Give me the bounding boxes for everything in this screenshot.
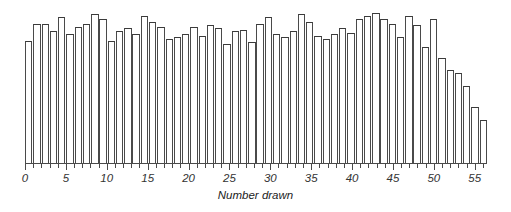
bar-series bbox=[25, 8, 487, 163]
x-axis-minor-tick bbox=[90, 164, 91, 168]
x-axis-tick-labels: 0510152025303540455055 bbox=[25, 172, 487, 188]
x-axis-major-tick bbox=[352, 164, 353, 170]
x-axis-major-tick bbox=[229, 164, 230, 170]
x-axis-tick-label: 50 bbox=[427, 172, 440, 184]
x-axis-minor-tick bbox=[172, 164, 173, 168]
histogram-bar bbox=[455, 73, 462, 163]
x-axis-minor-tick bbox=[458, 164, 459, 168]
x-axis-minor-tick bbox=[401, 164, 402, 168]
x-axis-tick-label: 30 bbox=[264, 172, 277, 184]
x-axis-label: Number drawn bbox=[0, 189, 511, 201]
histogram-bar bbox=[25, 41, 32, 163]
histogram-bar bbox=[83, 24, 90, 164]
histogram-bar bbox=[207, 25, 214, 163]
x-axis-minor-tick bbox=[197, 164, 198, 168]
histogram-bar bbox=[405, 16, 412, 163]
histogram-bar bbox=[58, 17, 65, 163]
x-axis-major-tick bbox=[270, 164, 271, 170]
x-axis-major-tick bbox=[393, 164, 394, 170]
x-axis-minor-tick bbox=[295, 164, 296, 168]
x-axis-minor-tick bbox=[33, 164, 34, 168]
histogram-bar bbox=[339, 28, 346, 163]
x-axis-major-tick bbox=[434, 164, 435, 170]
x-axis-minor-tick bbox=[180, 164, 181, 168]
x-axis-minor-tick bbox=[483, 164, 484, 168]
histogram-bar bbox=[66, 34, 73, 163]
histogram-bar bbox=[306, 22, 313, 163]
x-axis-ticks bbox=[25, 164, 487, 170]
x-axis-major-tick bbox=[66, 164, 67, 170]
histogram-bar bbox=[50, 31, 57, 163]
histogram-bar bbox=[33, 24, 40, 164]
x-axis-minor-tick bbox=[156, 164, 157, 168]
histogram-bar bbox=[256, 24, 263, 164]
histogram-bar bbox=[223, 44, 230, 163]
x-axis-minor-tick bbox=[303, 164, 304, 168]
x-axis-minor-tick bbox=[123, 164, 124, 168]
histogram-bar bbox=[75, 27, 82, 163]
histogram-bar bbox=[380, 19, 387, 163]
x-axis-minor-tick bbox=[385, 164, 386, 168]
x-axis-minor-tick bbox=[164, 164, 165, 168]
histogram-bar bbox=[265, 17, 272, 163]
histogram-bar bbox=[422, 47, 429, 163]
histogram-bar bbox=[372, 13, 379, 163]
x-axis-major-tick bbox=[148, 164, 149, 170]
histogram-bar bbox=[447, 70, 454, 163]
x-axis-minor-tick bbox=[82, 164, 83, 168]
histogram-bar bbox=[281, 37, 288, 163]
x-axis-minor-tick bbox=[377, 164, 378, 168]
histogram-bar bbox=[232, 31, 239, 163]
histogram-bar bbox=[331, 34, 338, 163]
histogram-bar bbox=[356, 19, 363, 163]
histogram-bar bbox=[199, 36, 206, 163]
x-axis-major-tick bbox=[189, 164, 190, 170]
histogram-bar bbox=[290, 31, 297, 163]
histogram-bar bbox=[132, 34, 139, 163]
x-axis-minor-tick bbox=[336, 164, 337, 168]
x-axis-minor-tick bbox=[409, 164, 410, 168]
x-axis-tick-label: 15 bbox=[141, 172, 154, 184]
x-axis-tick-label: 40 bbox=[346, 172, 359, 184]
x-axis-major-tick bbox=[107, 164, 108, 170]
histogram-bar bbox=[323, 39, 330, 163]
x-axis-major-tick bbox=[311, 164, 312, 170]
histogram-figure: 0510152025303540455055 Number drawn bbox=[0, 0, 511, 212]
x-axis-tick-label: 20 bbox=[182, 172, 195, 184]
x-axis-minor-tick bbox=[417, 164, 418, 168]
histogram-bar bbox=[438, 58, 445, 163]
x-axis-minor-tick bbox=[238, 164, 239, 168]
x-axis-minor-tick bbox=[287, 164, 288, 168]
histogram-bar bbox=[413, 25, 420, 163]
x-axis-tick-label: 55 bbox=[468, 172, 481, 184]
plot-area bbox=[25, 8, 487, 163]
histogram-bar bbox=[389, 24, 396, 164]
x-axis-tick-label: 25 bbox=[223, 172, 236, 184]
x-axis-minor-tick bbox=[450, 164, 451, 168]
x-axis-minor-tick bbox=[344, 164, 345, 168]
histogram-bar bbox=[215, 28, 222, 163]
x-axis-minor-tick bbox=[278, 164, 279, 168]
histogram-bar bbox=[166, 39, 173, 163]
x-axis-tick-label: 5 bbox=[63, 172, 69, 184]
histogram-bar bbox=[149, 22, 156, 163]
x-axis-minor-tick bbox=[328, 164, 329, 168]
histogram-bar bbox=[298, 14, 305, 163]
x-axis-minor-tick bbox=[262, 164, 263, 168]
x-axis-minor-tick bbox=[246, 164, 247, 168]
x-axis-tick-label: 0 bbox=[22, 172, 28, 184]
histogram-bar bbox=[364, 16, 371, 163]
histogram-bar bbox=[471, 107, 478, 163]
x-axis-minor-tick bbox=[442, 164, 443, 168]
x-axis-minor-tick bbox=[205, 164, 206, 168]
x-axis-tick-label: 45 bbox=[387, 172, 400, 184]
histogram-bar bbox=[240, 30, 247, 163]
x-axis-minor-tick bbox=[99, 164, 100, 168]
x-axis-minor-tick bbox=[221, 164, 222, 168]
x-axis-tick-label: 10 bbox=[100, 172, 113, 184]
histogram-bar bbox=[91, 14, 98, 163]
histogram-bar bbox=[99, 19, 106, 163]
x-axis-minor-tick bbox=[41, 164, 42, 168]
histogram-bar bbox=[108, 41, 115, 163]
histogram-bar bbox=[347, 33, 354, 163]
